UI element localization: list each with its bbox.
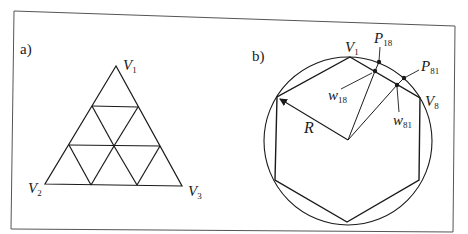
- radius-label: R: [303, 119, 314, 136]
- point-w18: [373, 69, 377, 73]
- line-center-w81: [348, 85, 397, 140]
- point-label-w81: w81: [393, 112, 412, 130]
- leader-p18: [379, 47, 380, 61]
- vertex-label-v2: V2: [28, 180, 42, 198]
- leader-p81: [406, 70, 419, 77]
- point-label-w18: w18: [328, 87, 348, 105]
- vertex-label-v8: V8: [425, 93, 439, 111]
- figure-canvas: a) V1 V2 V3 b): [0, 0, 468, 234]
- point-w81: [395, 83, 399, 87]
- vertex-label-v1: V1: [123, 57, 137, 75]
- leader-w81: [397, 87, 399, 112]
- point-p18: [377, 60, 381, 64]
- circumcircle: [264, 57, 432, 225]
- subdivided-triangle: [45, 66, 182, 186]
- radius-arrow: [280, 99, 348, 140]
- point-p81: [402, 76, 406, 80]
- vertex-label-v1: V1: [345, 39, 359, 57]
- panel-a: a) V1 V2 V3: [20, 41, 202, 201]
- panel-a-label: a): [20, 41, 32, 58]
- point-label-p18: P18: [373, 30, 393, 48]
- leader-w18: [341, 73, 372, 89]
- vertex-label-v3: V3: [188, 183, 202, 201]
- point-label-p81: P81: [420, 58, 439, 76]
- panel-b-label: b): [252, 48, 265, 65]
- panel-b: b) V1 V8 P18 P81: [252, 30, 439, 225]
- line-center-w18: [348, 71, 375, 140]
